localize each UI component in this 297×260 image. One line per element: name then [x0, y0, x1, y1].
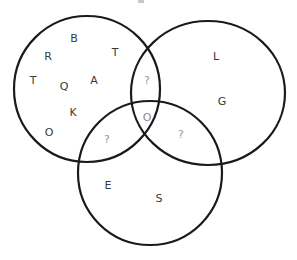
unknown-left-bottom: ?: [104, 133, 110, 146]
letter-left-k: K: [69, 106, 77, 119]
circle-right: [131, 21, 285, 165]
letter-left-o: O: [45, 126, 54, 139]
letter-right-l: L: [213, 50, 220, 63]
letter-center-o: O: [143, 111, 152, 124]
letter-right-g: G: [218, 95, 227, 108]
letter-bottom-e: E: [105, 179, 112, 192]
venn-diagram: B R T T Q A K O L G E S ? ? ? O: [0, 0, 297, 260]
unknown-left-right: ?: [144, 74, 150, 87]
letter-left-q: Q: [60, 80, 69, 93]
letter-left-b: B: [70, 32, 78, 45]
letter-left-t-upper: T: [111, 46, 119, 59]
letter-left-t-lower: T: [29, 74, 37, 87]
unknown-right-bottom: ?: [178, 128, 184, 141]
letter-bottom-s: S: [156, 192, 163, 205]
letter-left-a: A: [90, 74, 98, 87]
letter-left-r: R: [44, 50, 52, 63]
